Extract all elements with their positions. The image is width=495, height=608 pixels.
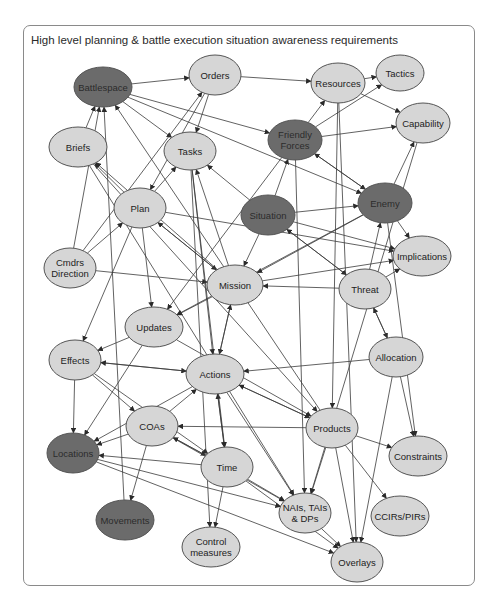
edge-mission-to-plan [158,223,217,271]
edge-plan-to-updates [142,228,151,307]
node-briefs[interactable]: Briefs [49,127,107,167]
node-situation[interactable]: Situation [241,195,295,235]
edge-actions-to-effects [101,363,187,372]
node-label: Battlespace [78,82,128,93]
node-label: Situation [250,210,287,221]
node-orders[interactable]: Orders [189,55,241,95]
node-ccirs[interactable]: CCIRs/PIRs [371,496,429,536]
edge-nais-to-overlays [321,529,340,547]
edge-effects-to-locations [73,380,74,433]
edge-situation-to-mission [244,234,259,266]
node-overlays[interactable]: Overlays [331,542,383,582]
edge-resources-to-tactics [364,77,376,79]
edge-threat-to-mission [263,286,339,288]
node-movements[interactable]: Movements [96,500,154,540]
node-label: Locations [53,448,94,459]
node-label: Tasks [178,146,203,157]
node-time[interactable]: Time [201,447,253,487]
node-label: Enemy [370,198,400,209]
node-label: Resources [315,78,361,89]
node-label: Friendly [278,129,312,140]
node-mission[interactable]: Mission [207,265,263,305]
edge-time-to-nais [248,479,285,501]
node-label: Briefs [66,142,91,153]
edge-products-to-constraints [356,436,392,448]
node-label: Capability [402,118,444,129]
edge-coas-to-movements [131,446,147,501]
edge-battlespace-to-orders [132,78,190,84]
edge-time-to-control-measures [215,487,223,527]
edge-situation-to-friendly-forces [275,159,288,195]
node-enemy[interactable]: Enemy [358,183,412,223]
dependency-graph: BattlespaceOrdersResourcesTacticsCapabil… [0,0,495,608]
edge-plan-to-briefs [95,163,124,192]
node-label: & DPs [292,513,319,524]
edge-briefs-to-battlespace [86,106,95,128]
node-label: Actions [199,369,230,380]
node-label: Forces [280,140,309,151]
edge-coas-to-locations [97,434,128,445]
node-actions[interactable]: Actions [186,354,244,394]
edge-updates-to-effects [98,337,129,350]
node-label: Mission [219,280,251,291]
node-effects[interactable]: Effects [49,340,101,380]
node-label: Control [196,536,227,547]
edge-products-to-ccirs [345,445,386,498]
edge-coas-to-actions [170,389,197,411]
node-updates[interactable]: Updates [125,307,183,347]
node-label: Overlays [338,557,376,568]
edge-resources-to-overlays [339,103,356,542]
edge-effects-to-coas [92,375,134,411]
node-locations[interactable]: Locations [47,433,99,473]
node-tactics[interactable]: Tactics [376,55,424,91]
edge-actions-to-mission [219,305,230,355]
node-label: Cmdrs [56,257,84,268]
edge-battlespace-to-tasks [123,102,172,138]
node-label: NAIs, TAIs [283,502,328,513]
node-coas[interactable]: COAs [126,406,178,446]
node-label: Allocation [375,352,416,363]
node-capability[interactable]: Capability [396,103,450,143]
node-plan[interactable]: Plan [114,188,166,228]
node-friendly-forces[interactable]: FriendlyForces [268,120,322,160]
edge-battlespace-to-enemy [128,97,362,193]
node-label: Orders [200,70,229,81]
edge-allocation-to-threat [374,308,388,338]
node-implications[interactable]: Implications [393,236,451,276]
node-label: Implications [397,251,447,262]
node-control-measures[interactable]: Controlmeasures [182,527,240,567]
edge-enemy-to-implications [397,221,409,238]
node-resources[interactable]: Resources [311,63,365,103]
edge-plan-to-effects [83,227,132,341]
node-label: Threat [351,284,379,295]
edge-friendly-forces-to-resources [308,101,325,123]
edge-products-to-coas [178,426,306,427]
node-threat[interactable]: Threat [339,269,391,309]
edge-products-to-overlays [336,448,354,542]
edge-situation-to-enemy [295,206,359,213]
node-label: Effects [61,355,90,366]
node-label: CCIRs/PIRs [374,511,425,522]
edge-orders-to-resources [241,77,311,82]
node-battlespace[interactable]: Battlespace [74,67,132,107]
edge-friendly-forces-to-nais [296,160,305,493]
node-label: Plan [130,203,149,214]
node-label: Tactics [385,68,414,79]
edge-situation-to-tasks [207,165,250,200]
node-cmdrs-direction[interactable]: CmdrsDirection [44,248,96,288]
node-allocation[interactable]: Allocation [369,337,423,377]
node-tasks[interactable]: Tasks [164,132,216,170]
node-label: Constraints [394,451,442,462]
edge-allocation-to-actions [244,360,370,372]
node-label: COAs [139,421,165,432]
edge-resources-to-capability [361,94,400,113]
node-nais[interactable]: NAIs, TAIs& DPs [279,493,331,533]
edge-threat-to-implications [386,269,400,277]
node-label: Time [217,462,238,473]
node-label: measures [190,547,232,558]
node-label: Movements [100,515,149,526]
edge-tasks-to-actions [192,170,213,354]
edge-enemy-to-friendly-forces [315,154,366,190]
node-products[interactable]: Products [306,408,358,448]
node-constraints[interactable]: Constraints [389,436,447,476]
